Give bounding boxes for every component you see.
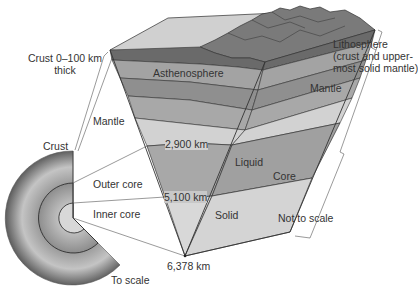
lithosphere-line3: most solid mantle) bbox=[333, 62, 418, 74]
depth-5100-label: 5,100 km bbox=[164, 191, 207, 203]
sphere-crust-label: Crust bbox=[43, 140, 68, 152]
solid-label: Solid bbox=[215, 209, 238, 221]
right-mantle-label: Mantle bbox=[310, 82, 342, 94]
lithosphere-line1: Lithosphere bbox=[333, 38, 418, 50]
sphere-inner-core bbox=[59, 203, 84, 233]
liquid-label: Liquid bbox=[235, 156, 263, 168]
crust-thickness-line1: Crust 0–100 km bbox=[25, 52, 105, 64]
sphere-outer-core-label: Outer core bbox=[93, 178, 143, 190]
depth-6378-label: 6,378 km bbox=[167, 260, 210, 272]
sphere-mantle-label: Mantle bbox=[93, 115, 125, 127]
crust-thickness-line2: thick bbox=[25, 64, 105, 76]
center-point bbox=[184, 255, 187, 258]
not-to-scale-label: Not to scale bbox=[278, 212, 333, 224]
asthenosphere-label: Asthenosphere bbox=[153, 67, 224, 79]
depth-2900-label: 2,900 km bbox=[165, 138, 208, 150]
right-core-label: Core bbox=[273, 170, 296, 182]
to-scale-label: To scale bbox=[111, 274, 150, 286]
lithosphere-label: Lithosphere (crust and upper- most solid… bbox=[333, 38, 418, 74]
crust-thickness-label: Crust 0–100 km thick bbox=[25, 52, 105, 76]
lithosphere-line2: (crust and upper- bbox=[333, 50, 418, 62]
sphere-inner-core-label: Inner core bbox=[93, 208, 140, 220]
